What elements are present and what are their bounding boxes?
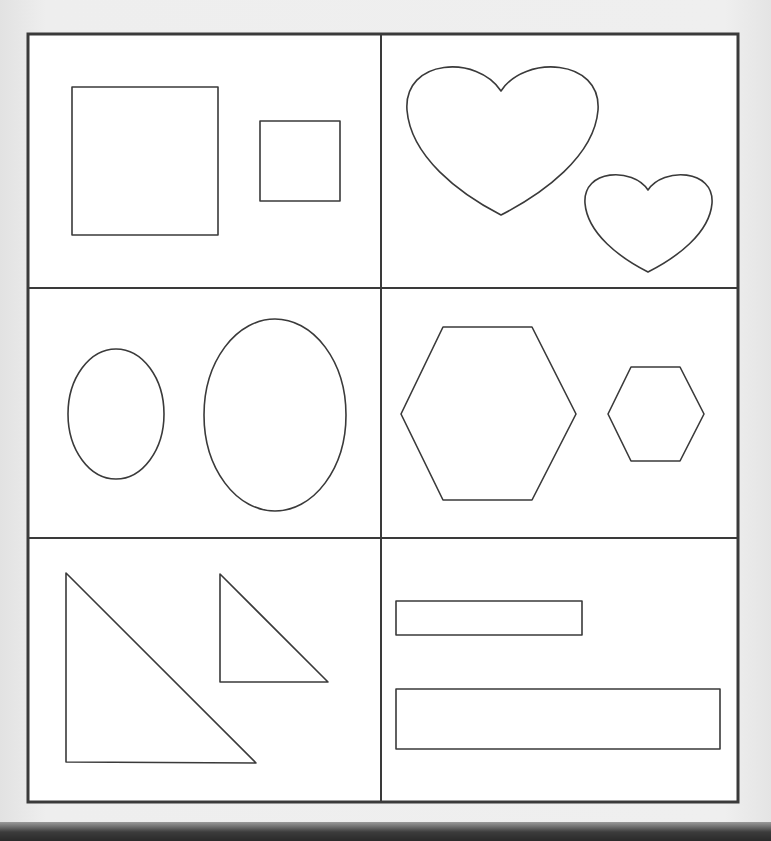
- worksheet-page: [0, 0, 771, 841]
- bottom-shadow-band: [0, 822, 771, 841]
- shape-comparison-worksheet: [0, 0, 771, 841]
- worksheet-frame: [28, 34, 738, 802]
